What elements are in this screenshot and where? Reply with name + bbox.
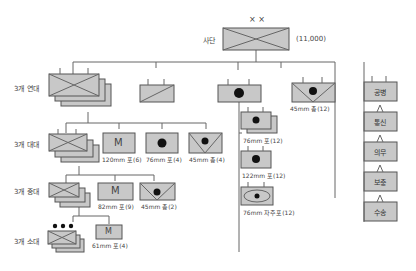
platoon-symbol-stack bbox=[48, 231, 84, 252]
company-mortar-caption: 82mm 포(9) bbox=[98, 202, 134, 211]
row-label-battalion: 3개 대대 bbox=[14, 139, 39, 149]
company-symbol-stack bbox=[49, 183, 90, 207]
battalion-gun-symbol bbox=[146, 133, 178, 153]
division-echelon-mark: × × bbox=[249, 15, 265, 24]
battalion-antitank-caption: 45mm 총(4) bbox=[189, 155, 225, 164]
artillery-sp-symbol bbox=[241, 182, 273, 205]
artillery-76mm-caption: 76mm 포(12) bbox=[243, 136, 283, 145]
artillery-122mm-caption: 122mm 포(12) bbox=[242, 171, 285, 180]
row-label-regiment: 3개 연대 bbox=[14, 83, 39, 93]
battalion-gun-caption: 76mm 포(4) bbox=[146, 155, 182, 164]
battalion-mortar-caption: 120mm 포(6) bbox=[102, 155, 142, 164]
division-strength: (11,000) bbox=[296, 35, 326, 43]
division-symbol bbox=[223, 28, 289, 50]
regiment-symbol-stack bbox=[49, 68, 111, 106]
company-antitank-symbol bbox=[140, 183, 175, 200]
regiment-recon-symbol bbox=[140, 79, 174, 102]
company-antitank-caption: 45mm 총(2) bbox=[141, 202, 177, 211]
support-transport-label: 수송 bbox=[365, 207, 395, 217]
artillery-sp-caption: 76mm 자주포(12) bbox=[243, 208, 295, 217]
battalion-symbol-stack bbox=[49, 129, 99, 162]
regiment-artillery-symbol bbox=[218, 79, 261, 102]
support-medical-label: 의무 bbox=[365, 147, 395, 157]
regiment-antitank-caption: 45mm 총(12) bbox=[290, 104, 330, 113]
artillery-122mm-symbol bbox=[241, 146, 271, 168]
artillery-76mm-symbol bbox=[241, 107, 277, 133]
support-engineer-label: 공병 bbox=[365, 87, 395, 97]
platoon-mortar-caption: 61mm 포(4) bbox=[92, 241, 128, 250]
platoon-echelon-dots bbox=[53, 224, 73, 228]
regiment-antitank-symbol bbox=[292, 77, 335, 102]
support-replacement-label: 보충 bbox=[365, 177, 395, 187]
support-signal-label: 통신 bbox=[365, 117, 395, 127]
company-mortar-letter: M bbox=[111, 185, 120, 196]
battalion-antitank-symbol bbox=[189, 133, 222, 153]
battalion-mortar-letter: M bbox=[114, 137, 123, 148]
row-label-platoon: 3개 소대 bbox=[14, 236, 39, 246]
division-label: 사단 bbox=[203, 35, 215, 45]
row-label-company: 3개 중대 bbox=[14, 186, 39, 196]
platoon-mortar-letter: M bbox=[105, 227, 112, 236]
